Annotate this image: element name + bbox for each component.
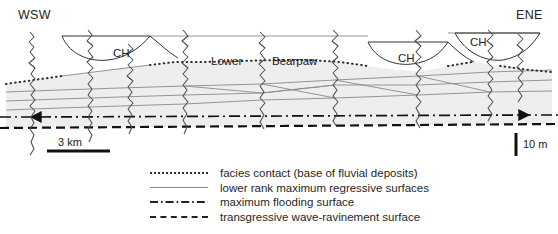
legend-swatch-dashed-icon — [148, 210, 210, 224]
legend-item-facies-contact: facies contact (base of fluvial deposits… — [148, 166, 548, 181]
channel-label-2: CH — [398, 52, 415, 64]
horizontal-scale-label: 3 km — [58, 136, 82, 148]
stratigraphic-shading — [6, 60, 552, 128]
legend-label-transgressive: transgressive wave-ravinement surface — [210, 210, 420, 225]
legend-swatch-solid-icon — [148, 181, 210, 195]
legend-label-maximum-flooding: maximum flooding surface — [210, 195, 354, 210]
channel-flank-1 — [150, 36, 178, 58]
legend-item-transgressive: transgressive wave-ravinement surface — [148, 210, 548, 225]
legend-label-maximum-regressive: lower rank maximum regressive surfaces — [210, 181, 429, 196]
channel-label-1: CH — [113, 47, 130, 59]
channel-lens-3 — [455, 33, 540, 60]
direction-label-left: WSW — [18, 8, 51, 22]
direction-label-right: ENE — [516, 8, 543, 22]
legend-item-maximum-flooding: maximum flooding surface — [148, 195, 548, 210]
channel-lens-1 — [62, 36, 150, 60]
channel-label-3: CH — [470, 36, 487, 48]
legend-swatch-dashdot-icon — [148, 195, 210, 209]
legend: facies contact (base of fluvial deposits… — [148, 166, 548, 224]
vertical-scale-label: 10 m — [523, 138, 547, 150]
unit-label-bearpaw: Bearpaw — [272, 55, 317, 67]
legend-label-facies-contact: facies contact (base of fluvial deposits… — [210, 166, 418, 181]
legend-item-maximum-regressive: lower rank maximum regressive surfaces — [148, 181, 548, 196]
unit-label-lower: Lower — [211, 55, 242, 67]
legend-swatch-dotted-icon — [148, 166, 210, 180]
